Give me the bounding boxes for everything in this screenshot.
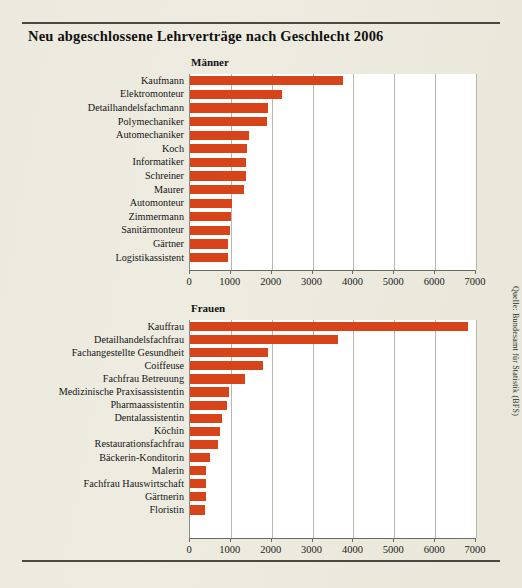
bar bbox=[190, 453, 210, 462]
axis-tick-label: 7000 bbox=[465, 276, 486, 287]
bar bbox=[190, 479, 206, 488]
grid-line bbox=[476, 74, 477, 270]
category-label: Schreiner bbox=[145, 171, 184, 181]
page-title: Neu abgeschlossene Lehrverträge nach Ges… bbox=[28, 28, 384, 45]
bar bbox=[190, 226, 230, 235]
top-divider bbox=[22, 22, 500, 24]
category-label: Pharmaassistentin bbox=[110, 400, 184, 410]
axis-tick-label: 1000 bbox=[219, 544, 240, 555]
bar bbox=[190, 103, 268, 112]
bar bbox=[190, 414, 222, 423]
axis-tick-label: 0 bbox=[186, 544, 191, 555]
grid-line bbox=[476, 320, 477, 538]
axis-tick-label: 7000 bbox=[465, 544, 486, 555]
category-label: Kauffrau bbox=[147, 322, 184, 332]
bottom-divider bbox=[22, 560, 500, 562]
bar bbox=[190, 335, 338, 344]
category-label: Detailhandelsfachfrau bbox=[94, 335, 184, 345]
category-label: Fachfrau Betreuung bbox=[103, 374, 184, 384]
bar bbox=[190, 505, 205, 514]
grid-line bbox=[272, 74, 273, 270]
bar bbox=[190, 322, 468, 331]
bar bbox=[190, 131, 249, 140]
chart-heading: Männer bbox=[191, 56, 229, 68]
category-label: Bäckerin-Konditorin bbox=[99, 453, 184, 463]
axis-tick-label: 3000 bbox=[301, 544, 322, 555]
bar bbox=[190, 253, 228, 262]
grid-line bbox=[353, 74, 354, 270]
axis-tick-label: 4000 bbox=[342, 544, 363, 555]
category-label: Logistikassistent bbox=[116, 253, 184, 263]
x-axis-line bbox=[189, 270, 475, 271]
category-label: Informatiker bbox=[133, 157, 184, 167]
category-label: Malerin bbox=[152, 466, 184, 476]
bar bbox=[190, 440, 218, 449]
grid-line bbox=[394, 74, 395, 270]
grid-line bbox=[394, 320, 395, 538]
axis-tick-label: 3000 bbox=[301, 276, 322, 287]
page-canvas: Neu abgeschlossene Lehrverträge nach Ges… bbox=[0, 0, 522, 588]
bar bbox=[190, 401, 227, 410]
grid-line bbox=[435, 74, 436, 270]
source-note: Quelle: Bundesamt für Statistik (BFS) bbox=[511, 286, 520, 416]
axis-tick-label: 0 bbox=[186, 276, 191, 287]
category-label: Coiffeuse bbox=[145, 361, 184, 371]
category-label: Köchin bbox=[154, 426, 184, 436]
grid-line bbox=[313, 74, 314, 270]
bar bbox=[190, 361, 263, 370]
bar bbox=[190, 348, 268, 357]
axis-tick-label: 6000 bbox=[424, 544, 445, 555]
axis-tick-label: 5000 bbox=[383, 276, 404, 287]
category-label: Elektromonteur bbox=[120, 89, 184, 99]
axis-tick-label: 6000 bbox=[424, 276, 445, 287]
chart-maenner: Männer01000200030004000500060007000Kaufm… bbox=[0, 52, 522, 292]
bar bbox=[190, 171, 246, 180]
axis-tick-label: 2000 bbox=[260, 276, 281, 287]
bar bbox=[190, 427, 220, 436]
category-label: Koch bbox=[162, 144, 184, 154]
bar bbox=[190, 117, 267, 126]
axis-tick-label: 4000 bbox=[342, 276, 363, 287]
category-label: Gärtner bbox=[153, 239, 184, 249]
chart-frauen: Frauen01000200030004000500060007000Kauff… bbox=[0, 298, 522, 560]
bar bbox=[190, 199, 232, 208]
bar bbox=[190, 492, 206, 501]
category-label: Restaurationsfachfrau bbox=[95, 439, 184, 449]
grid-line bbox=[353, 320, 354, 538]
category-label: Detailhandelsfachmann bbox=[88, 103, 184, 113]
bar bbox=[190, 387, 229, 396]
category-label: Automechaniker bbox=[116, 130, 184, 140]
category-label: Maurer bbox=[154, 185, 184, 195]
bar bbox=[190, 185, 244, 194]
category-label: Gärtnerin bbox=[145, 492, 184, 502]
grid-line bbox=[272, 320, 273, 538]
category-label: Zimmermann bbox=[129, 212, 184, 222]
grid-line bbox=[435, 320, 436, 538]
axis-tick-label: 1000 bbox=[219, 276, 240, 287]
category-label: Medizinische Praxisassistentin bbox=[59, 387, 184, 397]
category-label: Floristin bbox=[149, 505, 184, 515]
category-label: Dentalassistentin bbox=[114, 413, 184, 423]
axis-tick-label: 5000 bbox=[383, 544, 404, 555]
axis-tick bbox=[475, 270, 476, 274]
category-label: Fachangestellte Gesundheit bbox=[72, 348, 184, 358]
category-label: Kaufmann bbox=[141, 76, 184, 86]
bar bbox=[190, 212, 231, 221]
bar bbox=[190, 239, 228, 248]
bar bbox=[190, 374, 245, 383]
bar bbox=[190, 76, 343, 85]
bar bbox=[190, 466, 206, 475]
axis-tick-label: 2000 bbox=[260, 544, 281, 555]
axis-tick bbox=[475, 538, 476, 542]
bar bbox=[190, 90, 282, 99]
category-label: Sanitärmonteur bbox=[121, 225, 184, 235]
chart-heading: Frauen bbox=[191, 302, 225, 314]
category-label: Polymechaniker bbox=[118, 117, 184, 127]
bar bbox=[190, 144, 247, 153]
category-label: Fachfrau Hauswirtschaft bbox=[84, 479, 184, 489]
grid-line bbox=[313, 320, 314, 538]
bar bbox=[190, 158, 246, 167]
category-label: Automonteur bbox=[130, 198, 184, 208]
x-axis-line bbox=[189, 538, 475, 539]
